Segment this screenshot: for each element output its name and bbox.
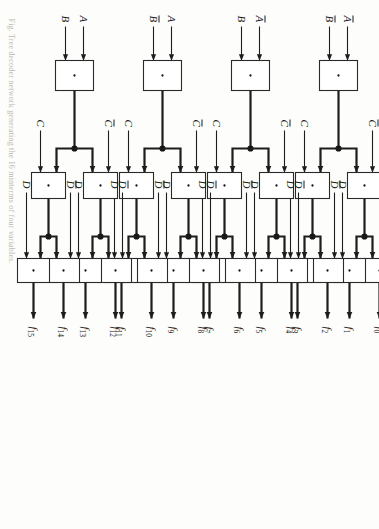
output-label-f4: f4 <box>286 326 297 333</box>
figure-caption: Fig. Tree decoder network generating the… <box>6 18 15 263</box>
input-label-g2-B-bar: B <box>147 15 159 22</box>
branch2-g2-f11 <box>128 236 136 258</box>
input-label-g3-c0: C <box>102 119 114 126</box>
input-label-g3-d-f15: D <box>21 180 32 188</box>
output-label-f12: f12 <box>110 326 121 337</box>
output-label-f2: f2 <box>322 326 333 333</box>
branch2-g0-f1 <box>356 236 364 258</box>
rotated-page: ABCDf0Df1CDf2Df3ABCDf4Df5CDf6Df7ABCDf8Df… <box>0 0 379 529</box>
output-label-f1: f1 <box>344 326 355 333</box>
input-label-g2-d-f8: D <box>204 180 216 188</box>
input-label-g0-A-bar: A <box>341 15 353 22</box>
input-label-g2-c0: C <box>190 119 202 126</box>
input-label-g1-c0: C <box>278 119 290 126</box>
branch-g1-c0 <box>250 148 268 172</box>
output-label-f13: f13 <box>80 326 91 337</box>
input-label-g1-B: B <box>236 15 247 22</box>
input-label-g2-c1: C <box>123 119 134 126</box>
output-label-f5: f5 <box>256 326 267 333</box>
input-label-g3-c1: C <box>35 119 46 126</box>
branch-g1-c1 <box>232 148 250 172</box>
branch-g3-c1 <box>56 148 74 172</box>
input-label-g3-d-f14: D <box>64 180 76 188</box>
branch2-g1-f5 <box>268 236 276 258</box>
branch-g2-c1 <box>144 148 162 172</box>
input-label-g0-c1: C <box>299 119 310 126</box>
branch-g3-c0 <box>74 148 92 172</box>
input-label-g2-A: A <box>166 15 177 22</box>
diagram-canvas: ABCDf0Df1CDf2Df3ABCDf4Df5CDf6Df7ABCDf8Df… <box>0 0 379 529</box>
output-label-f0: f0 <box>374 326 379 333</box>
input-label-g1-A-bar: A <box>253 15 265 22</box>
output-label-f8: f8 <box>198 326 209 333</box>
input-label-g0-d-f2: D <box>328 180 340 188</box>
input-label-g3-d-f12: D <box>116 180 128 188</box>
output-label-f14: f14 <box>58 326 69 337</box>
branch-g0-c0 <box>338 148 356 172</box>
branch2-g2-f9 <box>180 236 188 258</box>
figure-sheet: ABCDf0Df1CDf2Df3ABCDf4Df5CDf6Df7ABCDf8Df… <box>0 0 379 529</box>
branch-g2-c0 <box>162 148 180 172</box>
branch2-g0-f3 <box>304 236 312 258</box>
input-label-g3-B: B <box>60 15 71 22</box>
output-label-f6: f6 <box>234 326 245 333</box>
input-label-g2-d-f10: D <box>152 180 164 188</box>
input-label-g3-A: A <box>78 15 89 22</box>
input-label-g1-d-f4: D <box>292 180 304 188</box>
output-label-f10: f10 <box>146 326 157 337</box>
and-gate-g0-c0[interactable] <box>347 172 379 198</box>
branch-g0-c1 <box>320 148 338 172</box>
input-label-g1-c1: C <box>211 119 222 126</box>
branch2-g1-f7 <box>216 236 224 258</box>
output-label-f9: f9 <box>168 326 179 333</box>
output-label-f15: f15 <box>28 326 39 337</box>
input-label-g0-c0: C <box>366 119 378 126</box>
wire-layer <box>0 0 379 529</box>
input-label-g0-B-bar: B <box>323 15 335 22</box>
branch2-g3-f13 <box>92 236 100 258</box>
input-label-g1-d-f6: D <box>240 180 252 188</box>
branch2-g3-f15 <box>40 236 48 258</box>
